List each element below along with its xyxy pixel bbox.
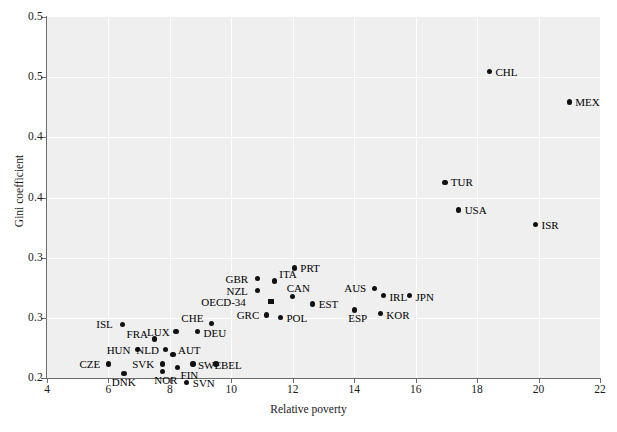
x-axis-title: Relative poverty: [0, 403, 617, 415]
data-point[interactable]: [272, 278, 277, 283]
data-point-label: AUS: [344, 283, 366, 294]
y-axis-title: Gini coefficient: [13, 121, 25, 261]
data-point-label: LUX: [147, 327, 170, 338]
x-axis-tick-label: 18: [457, 383, 497, 395]
data-point-label: EST: [319, 299, 339, 310]
scatter-chart: Gini coefficient Relative poverty 468101…: [0, 0, 617, 432]
data-point[interactable]: [268, 299, 274, 305]
data-point-label: IRL: [389, 292, 407, 303]
y-axis-tick-label: 0.4: [28, 191, 43, 203]
x-axis-tick-label: 10: [211, 383, 251, 395]
x-axis-tick-label: 20: [519, 383, 559, 395]
data-point[interactable]: [160, 369, 165, 374]
data-point[interactable]: [152, 336, 157, 341]
data-point[interactable]: [213, 361, 218, 366]
x-axis-tick-label: 16: [396, 383, 436, 395]
data-point[interactable]: [264, 312, 269, 317]
data-point-label: ISL: [96, 319, 113, 330]
data-point-label: SVN: [193, 378, 215, 389]
gridline-horizontal: [47, 198, 600, 199]
data-point-label: DEU: [204, 328, 227, 339]
data-point-label: JPN: [416, 292, 434, 303]
data-point[interactable]: [120, 322, 125, 327]
data-point[interactable]: [190, 361, 195, 366]
y-axis-tick-label: 0.3: [28, 251, 43, 263]
data-point[interactable]: [278, 315, 283, 320]
data-point-label: ISR: [541, 220, 558, 231]
data-point-label: AUT: [178, 345, 201, 356]
data-point-label: USA: [465, 205, 487, 216]
x-axis-tick-label: 12: [273, 383, 313, 395]
data-point-label: CHE: [181, 313, 203, 324]
data-point-label: FRA: [127, 329, 148, 340]
data-point-label: SVK: [132, 359, 154, 370]
data-point-label: GRC: [237, 310, 260, 321]
data-point-label: KOR: [386, 310, 409, 321]
data-point-label: BEL: [221, 360, 242, 371]
x-axis-tick-label: 4: [27, 383, 67, 395]
data-point[interactable]: [442, 180, 447, 185]
x-axis-tick-label: 22: [580, 383, 617, 395]
data-point-label: DNK: [112, 377, 136, 388]
data-point[interactable]: [170, 352, 175, 357]
data-point-label: ESP: [348, 313, 367, 324]
data-point[interactable]: [372, 286, 377, 291]
data-point[interactable]: [106, 361, 111, 366]
data-point-label: ITA: [279, 269, 296, 280]
data-point-label: TUR: [451, 177, 473, 188]
y-axis-tick-label: 0.2: [28, 371, 43, 383]
gridline-horizontal: [47, 318, 600, 319]
gridline-horizontal: [47, 258, 600, 259]
y-axis-tick-label: 0.5: [28, 10, 43, 22]
data-point-label: MEX: [575, 97, 599, 108]
data-point-label: NOR: [154, 375, 177, 386]
y-axis-tick-label: 0.5: [28, 70, 43, 82]
data-point-label: OECD-34: [201, 297, 246, 308]
data-point-label: GBR: [225, 274, 248, 285]
data-point-label: NLD: [136, 345, 159, 356]
data-point-label: CZE: [79, 359, 100, 370]
x-axis-tick-label: 14: [334, 383, 374, 395]
y-axis-tick-label: 0.4: [28, 130, 43, 142]
data-point[interactable]: [209, 321, 214, 326]
data-point-label: PRT: [300, 263, 320, 274]
data-point[interactable]: [567, 99, 572, 104]
data-point[interactable]: [173, 329, 178, 334]
data-point-label: HUN: [107, 345, 131, 356]
data-point-label: POL: [286, 313, 307, 324]
data-point-label: CAN: [287, 283, 310, 294]
y-axis-tick-label: 0.3: [28, 311, 43, 323]
data-point[interactable]: [160, 361, 165, 366]
gridline-horizontal: [47, 137, 600, 138]
data-point-label: CHL: [495, 67, 517, 78]
